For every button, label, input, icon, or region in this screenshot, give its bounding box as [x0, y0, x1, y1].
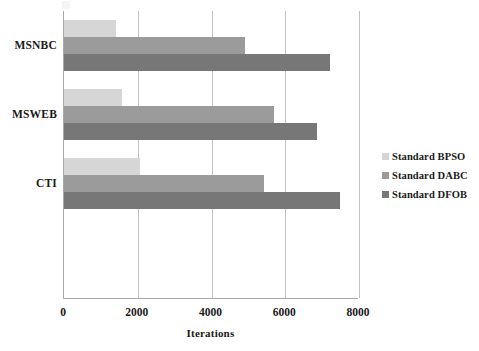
- bar-msnbc-dfob: [64, 54, 330, 71]
- scan-artifact: [62, 1, 70, 9]
- legend-item-bpso[interactable]: Standard BPSO: [382, 147, 477, 166]
- bar-cti-bpso: [64, 158, 140, 175]
- bar-group-msweb: [64, 89, 358, 140]
- gridline-8000: [359, 11, 360, 298]
- category-label-cti: CTI: [36, 177, 57, 189]
- x-tick-0: 0: [60, 306, 66, 318]
- bar-msnbc-bpso: [64, 20, 116, 37]
- bar-cti-dabc: [64, 175, 264, 192]
- category-label-msnbc: MSNBC: [14, 39, 57, 51]
- x-tick-2000: 2000: [125, 306, 148, 318]
- legend-swatch-icon: [382, 191, 389, 198]
- x-tick-4000: 4000: [199, 306, 222, 318]
- legend-swatch-icon: [382, 172, 389, 179]
- bar-msweb-dfob: [64, 123, 317, 140]
- legend-label: Standard DFOB: [392, 189, 467, 200]
- x-axis-title: Iterations: [63, 327, 358, 339]
- legend-item-dabc[interactable]: Standard DABC: [382, 166, 477, 185]
- x-tick-8000: 8000: [347, 306, 370, 318]
- bar-chart: MSNBCMSWEBCTI 02000400060008000 Iteratio…: [0, 0, 479, 351]
- bar-group-cti: [64, 158, 358, 209]
- bar-msweb-bpso: [64, 89, 122, 106]
- bar-msweb-dabc: [64, 106, 274, 123]
- legend-label: Standard DABC: [392, 170, 468, 181]
- bar-msnbc-dabc: [64, 37, 245, 54]
- chart-legend: Standard BPSOStandard DABCStandard DFOB: [382, 147, 477, 204]
- plot-area: [63, 11, 358, 299]
- category-label-msweb: MSWEB: [12, 108, 57, 120]
- legend-item-dfob[interactable]: Standard DFOB: [382, 185, 477, 204]
- bar-cti-dfob: [64, 192, 340, 209]
- legend-label: Standard BPSO: [392, 151, 465, 162]
- legend-swatch-icon: [382, 153, 389, 160]
- bar-group-msnbc: [64, 20, 358, 71]
- x-tick-6000: 6000: [273, 306, 296, 318]
